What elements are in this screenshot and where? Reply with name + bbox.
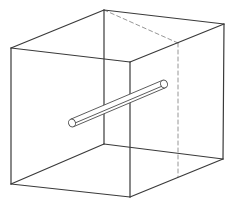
edge-top-back — [104, 10, 224, 24]
edge-bottom-front — [11, 184, 130, 197]
cube-cylinder-diagram — [0, 0, 234, 204]
cylinder-side-upper — [74, 88, 166, 127]
cylinder-side-lower — [70, 80, 162, 119]
edge-bottom-back — [104, 144, 223, 159]
cylinder-body — [70, 80, 165, 126]
cylinder-highlight — [72, 85, 164, 124]
hidden-edge-top — [104, 10, 178, 43]
cylinder — [67, 79, 168, 128]
diagram-canvas — [0, 0, 234, 204]
edge-bottom-left — [11, 144, 104, 184]
edge-bottom-right — [130, 159, 223, 197]
edge-top-right — [130, 24, 224, 62]
edge-back-right — [223, 24, 224, 159]
edge-top-front — [11, 48, 130, 62]
edge-top-left — [11, 10, 104, 48]
